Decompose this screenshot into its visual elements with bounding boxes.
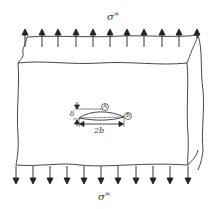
top-stress-arrows — [22, 29, 200, 47]
bottom-stress-arrows — [13, 166, 191, 184]
crack-opening-label: δ — [70, 111, 74, 118]
point-a-label: A — [103, 104, 107, 110]
top-stress-label: σ∞ — [107, 11, 120, 22]
plate-body — [16, 35, 204, 170]
crack-length-label: 2b — [94, 127, 104, 135]
bottom-stress-label: σ∞ — [98, 191, 111, 202]
diagram-canvas — [0, 0, 214, 209]
point-b-label: B — [126, 113, 130, 119]
